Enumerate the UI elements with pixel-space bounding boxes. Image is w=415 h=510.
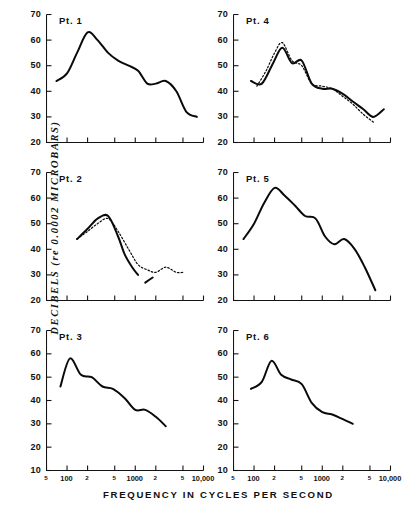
x-tick-label: 10,000 <box>192 474 215 483</box>
panel-title: Pt. 3 <box>59 331 83 342</box>
y-tick-label: 30 <box>21 269 41 279</box>
data-curve <box>257 43 373 123</box>
x-axis-title: FREQUENCY IN CYCLES PER SECOND <box>0 489 415 500</box>
plot-area <box>46 330 205 472</box>
plot-area <box>233 14 392 144</box>
y-tick-label: 60 <box>21 193 41 203</box>
y-tick-label: 70 <box>21 167 41 177</box>
data-curve <box>243 188 375 291</box>
x-tick-label: 5 <box>181 474 184 481</box>
figure-root: DECIBELS (re 0.0002 MICROBARS) 706050403… <box>0 0 415 510</box>
axis-spines <box>234 15 391 143</box>
panel-title: Pt. 6 <box>246 331 270 342</box>
y-tick-label: 30 <box>208 111 228 121</box>
plot-area <box>233 172 392 302</box>
x-tick-label: 1000 <box>314 474 330 483</box>
x-tick-label: 5 <box>112 474 115 481</box>
panel-pt-1: 706050403020Pt. 1 <box>46 14 203 166</box>
y-tick-label: 30 <box>21 418 41 428</box>
y-tick-label: 40 <box>208 395 228 405</box>
y-tick-label: 60 <box>21 35 41 45</box>
y-tick-label: 40 <box>208 86 228 96</box>
panel-pt-5: 706050403020Pt. 5 <box>233 172 390 324</box>
y-tick-label: 40 <box>21 395 41 405</box>
y-tick-label: 70 <box>208 325 228 335</box>
y-tick-label: 70 <box>21 9 41 19</box>
plot-area <box>46 172 205 302</box>
x-tick-label: 5 <box>231 474 234 481</box>
x-tick-label: 10,000 <box>379 474 402 483</box>
y-tick-label: 40 <box>21 86 41 96</box>
y-tick-label: 30 <box>208 269 228 279</box>
data-curve <box>56 32 196 117</box>
data-curve <box>145 277 152 282</box>
y-tick-label: 50 <box>208 60 228 70</box>
y-tick-label: 50 <box>21 372 41 382</box>
x-tick-label: 100 <box>247 474 259 483</box>
x-tick-label: 2 <box>85 474 88 481</box>
axis-spines <box>234 331 391 471</box>
panel-title: Pt. 1 <box>59 15 83 26</box>
y-tick-label: 70 <box>208 9 228 19</box>
panel-pt-4: 706050403020Pt. 4 <box>233 14 390 166</box>
plot-area <box>46 14 205 144</box>
y-tick-label: 30 <box>208 418 228 428</box>
x-tick-label: 2 <box>154 474 157 481</box>
y-tick-label: 60 <box>208 348 228 358</box>
x-tick-label: 5 <box>368 474 371 481</box>
axis-spines <box>47 15 204 143</box>
y-tick-label: 30 <box>21 111 41 121</box>
axis-spines <box>47 331 204 471</box>
panel-pt-6: 7060504030201051002510002510,000Pt. 6 <box>233 330 390 494</box>
plot-area <box>233 330 392 472</box>
y-tick-label: 60 <box>21 348 41 358</box>
x-tick-label: 5 <box>299 474 302 481</box>
data-curve <box>60 358 165 426</box>
y-tick-label: 40 <box>208 244 228 254</box>
x-tick-label: 100 <box>60 474 72 483</box>
y-tick-label: 70 <box>21 325 41 335</box>
y-tick-label: 20 <box>21 295 41 305</box>
y-tick-label: 10 <box>208 465 228 475</box>
y-tick-label: 50 <box>208 372 228 382</box>
y-tick-label: 20 <box>208 295 228 305</box>
y-tick-label: 20 <box>21 442 41 452</box>
axis-spines <box>234 173 391 301</box>
panel-pt-2: 706050403020Pt. 2 <box>46 172 203 324</box>
y-tick-label: 70 <box>208 167 228 177</box>
x-tick-label: 2 <box>341 474 344 481</box>
y-tick-label: 50 <box>208 218 228 228</box>
y-tick-label: 20 <box>208 442 228 452</box>
axis-spines <box>47 173 204 301</box>
y-tick-label: 20 <box>208 137 228 147</box>
panel-title: Pt. 2 <box>59 173 83 184</box>
y-tick-label: 60 <box>208 35 228 45</box>
data-curve <box>77 215 138 275</box>
panel-pt-3: 7060504030201051002510002510,000Pt. 3 <box>46 330 203 494</box>
panel-title: Pt. 5 <box>246 173 270 184</box>
panel-title: Pt. 4 <box>246 15 270 26</box>
x-tick-label: 5 <box>44 474 47 481</box>
y-tick-label: 40 <box>21 244 41 254</box>
y-tick-label: 10 <box>21 465 41 475</box>
y-tick-label: 60 <box>208 193 228 203</box>
y-tick-label: 50 <box>21 218 41 228</box>
x-tick-label: 2 <box>272 474 275 481</box>
data-curve <box>251 48 384 117</box>
x-tick-label: 1000 <box>127 474 143 483</box>
y-tick-label: 20 <box>21 137 41 147</box>
data-curve <box>251 361 353 424</box>
y-tick-label: 50 <box>21 60 41 70</box>
